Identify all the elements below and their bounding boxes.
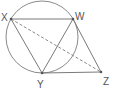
point-w [72, 18, 75, 21]
segment-xy [11, 19, 42, 73]
label-w: W [75, 11, 85, 22]
point-x [10, 18, 13, 21]
geometry-diagram: X W Y Z [0, 0, 116, 93]
label-y: Y [37, 79, 44, 90]
point-z [100, 71, 103, 74]
label-z: Z [103, 76, 109, 87]
point-y [41, 72, 44, 75]
label-x: X [1, 12, 8, 23]
segment-wy [42, 19, 73, 73]
